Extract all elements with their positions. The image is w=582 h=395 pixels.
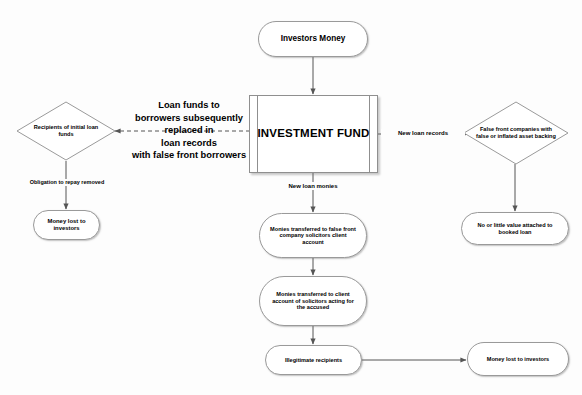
edge-label-new-loan-records: New loan records xyxy=(381,129,465,137)
node-recipients-initial-loan[interactable]: Recipients of initial loan funds xyxy=(16,101,116,161)
node-accused-solicitors-label: Monies transferred to client account of … xyxy=(268,291,358,311)
node-investors-money-label: Investors Money xyxy=(281,34,346,44)
node-false-front-companies-label: False front companies with false or infl… xyxy=(476,101,557,165)
node-investment-fund-label: INVESTMENT FUND xyxy=(257,127,369,141)
node-no-value-booked-loan[interactable]: No or little value attached to booked lo… xyxy=(461,212,569,245)
node-investors-money[interactable]: Investors Money xyxy=(258,21,368,57)
loan-funds-line-1: Loan funds to xyxy=(128,99,250,112)
edge-label-obligation-removed: Obligation to repay removed xyxy=(18,179,116,186)
node-false-front-companies[interactable]: False front companies with false or infl… xyxy=(463,101,569,165)
node-false-front-solicitors-label: Monies transferred to false front compan… xyxy=(268,226,358,246)
loan-funds-line-2: borrowers subsequently xyxy=(128,112,250,125)
node-money-lost-left[interactable]: Money lost to investors xyxy=(33,210,100,240)
node-false-front-solicitors[interactable]: Monies transferred to false front compan… xyxy=(259,213,367,258)
node-investment-fund[interactable]: INVESTMENT FUND xyxy=(249,95,378,173)
node-illegitimate-recipients[interactable]: Illegitimate recipients xyxy=(265,345,362,375)
node-recipients-initial-loan-label: Recipients of initial loan funds xyxy=(28,101,104,161)
node-accused-solicitors[interactable]: Monies transferred to client account of … xyxy=(259,276,367,326)
node-no-value-booked-loan-label: No or little value attached to booked lo… xyxy=(470,222,560,235)
flowchart-canvas: Investors Money INVESTMENT FUND Recipien… xyxy=(0,0,582,395)
loan-funds-line-4: loan records xyxy=(128,137,250,150)
node-money-lost-right[interactable]: Money lost to investors xyxy=(467,342,569,376)
loan-funds-line-3: replaced in xyxy=(128,124,250,137)
node-money-lost-left-label: Money lost to investors xyxy=(40,218,93,232)
loan-funds-line-5: with false front borrowers xyxy=(128,149,250,162)
flowchart-connectors xyxy=(0,0,582,395)
edge-label-new-loan-monies: New loan monies xyxy=(273,182,353,190)
node-money-lost-right-label: Money lost to investors xyxy=(487,356,549,363)
node-illegitimate-recipients-label: Illegitimate recipients xyxy=(285,357,342,364)
edge-label-loan-funds-replaced: Loan funds to borrowers subsequently rep… xyxy=(128,99,250,162)
